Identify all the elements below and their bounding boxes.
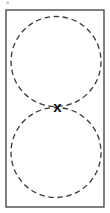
top-left-speck-icon: [7, 2, 10, 5]
tangency-marker: x: [53, 98, 62, 115]
figure-canvas: x: [0, 0, 110, 213]
lower-circle: [11, 108, 101, 198]
upper-circle: [11, 17, 101, 107]
figure-container: x: [0, 0, 110, 213]
